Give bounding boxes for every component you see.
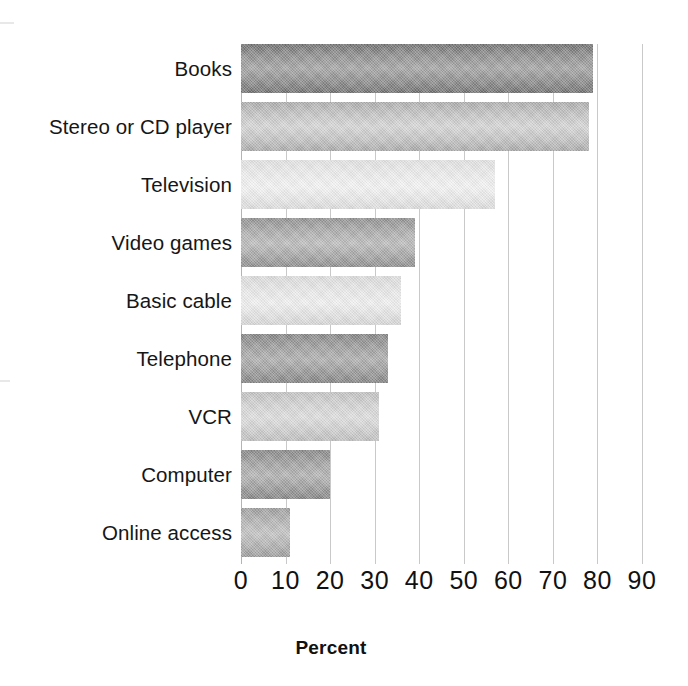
x-axis-title-text: Percent <box>295 637 366 658</box>
bar-online-access <box>241 508 290 557</box>
scan-artifact-left-mid <box>0 380 10 382</box>
category-axis: Books Stereo or CD player Television Vid… <box>0 44 232 564</box>
category-label: VCR <box>0 392 232 441</box>
category-label: Stereo or CD player <box>0 102 232 151</box>
bar-video-games <box>241 218 415 267</box>
scan-artifact-left-top <box>0 22 14 24</box>
xtick-label: 90 <box>612 566 672 595</box>
category-label: Telephone <box>0 334 232 383</box>
category-label: Television <box>0 160 232 209</box>
category-label: Online access <box>0 508 232 557</box>
bar-chart: Books Stereo or CD player Television Vid… <box>0 0 688 686</box>
category-label: Computer <box>0 450 232 499</box>
bar-series <box>241 44 642 564</box>
category-label: Video games <box>0 218 232 267</box>
bar-books <box>241 44 593 93</box>
gridline-90 <box>642 44 643 564</box>
bar-basic-cable <box>241 276 401 325</box>
plot-area <box>241 44 642 564</box>
x-axis-title: Percent <box>0 637 688 659</box>
value-axis: 0 10 20 30 40 50 60 70 80 90 <box>241 566 642 606</box>
bar-telephone <box>241 334 388 383</box>
category-label: Basic cable <box>0 276 232 325</box>
bar-computer <box>241 450 330 499</box>
bar-stereo-or-cd-player <box>241 102 589 151</box>
bar-vcr <box>241 392 379 441</box>
bar-television <box>241 160 495 209</box>
category-label: Books <box>0 44 232 93</box>
